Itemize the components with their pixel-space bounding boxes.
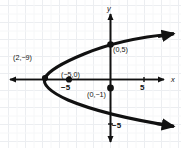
- axis-tick-marks: [68, 77, 144, 124]
- point-vertex-dot: [42, 75, 48, 81]
- point-vertex-label: (2,−9): [13, 53, 32, 62]
- graph-canvas: (2,−9) (0,5) (−5,0) (0,−1) −5 5 −5 x y: [0, 0, 181, 148]
- plotted-points: [42, 41, 114, 91]
- y-tick-label-neg5: −5: [112, 121, 122, 130]
- x-tick-label-5: 5: [140, 83, 145, 92]
- point-y-lower-dot: [107, 85, 114, 92]
- coordinate-graph-figure: (2,−9) (0,5) (−5,0) (0,−1) −5 5 −5 x y: [0, 0, 181, 148]
- grid-lines: [0, 0, 181, 148]
- x-tick-label-neg5: −5: [61, 83, 71, 92]
- point-y-upper-label: (0,5): [113, 45, 128, 54]
- point-y-lower-label: (0,−1): [87, 90, 106, 99]
- point-x-intercept-label: (−5,0): [61, 70, 80, 79]
- x-axis-letter: x: [170, 75, 175, 84]
